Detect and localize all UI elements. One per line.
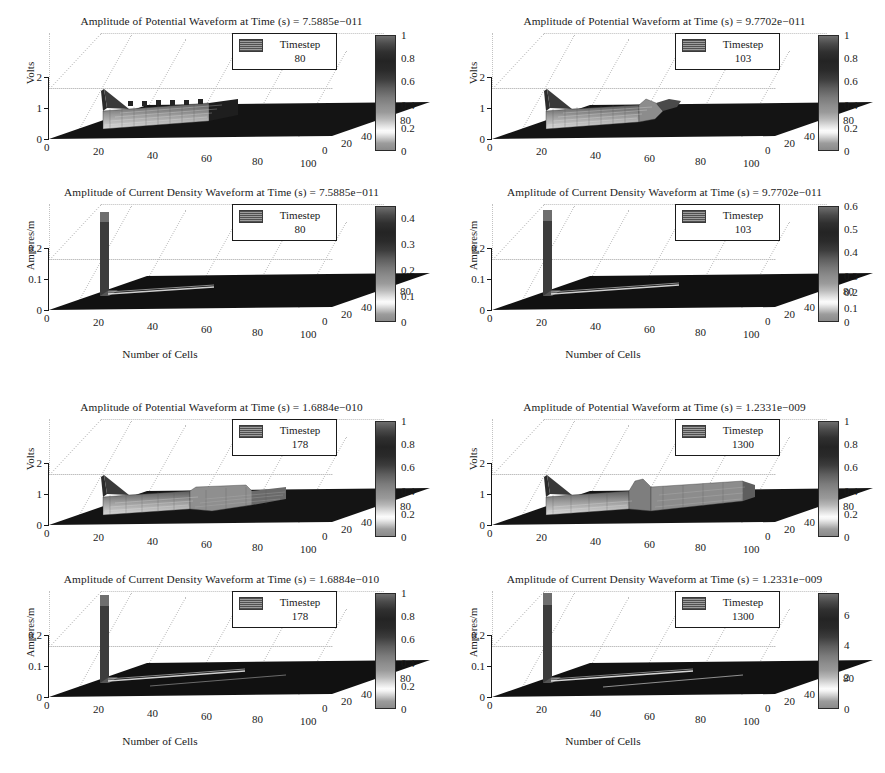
- x-tick-label: 20: [93, 703, 104, 715]
- x-tick-label: 100: [743, 715, 760, 727]
- x-tick-label: 20: [536, 703, 547, 715]
- x-tick-label: 100: [743, 543, 760, 555]
- z-tick-label: 0: [322, 530, 328, 542]
- z-tick-label: 20: [341, 695, 352, 707]
- legend-box[interactable]: Timestep 178: [232, 419, 337, 456]
- colorbar-tick: 0: [401, 531, 407, 543]
- plot-area: Volts 2 1 0: [443, 415, 885, 543]
- z-tick-label: 40: [361, 688, 372, 700]
- x-tick-label: 40: [590, 707, 601, 719]
- x-tick-label: 100: [300, 328, 317, 340]
- legend-swatch: [682, 210, 706, 223]
- x-tick-label: 80: [252, 155, 263, 167]
- x-tick-label: 60: [644, 710, 655, 722]
- legend-timestep-value: 103: [714, 51, 772, 65]
- colorbar-tick: 1: [401, 29, 407, 41]
- x-tick-label: 20: [536, 145, 547, 157]
- legend-swatch: [239, 597, 263, 610]
- colorbar: [818, 206, 839, 322]
- x-tick-label: 80: [252, 713, 263, 725]
- x-tick-label: 80: [252, 541, 263, 553]
- colorbar-tick: 0.6: [401, 75, 415, 87]
- panel-title: Amplitude of Current Density Waveform at…: [0, 185, 443, 200]
- legend-box[interactable]: Timestep 1300: [675, 591, 780, 628]
- x-tick-label: 80: [695, 326, 706, 338]
- legend-timestep-value: 1300: [714, 609, 772, 623]
- colorbar: [818, 593, 839, 709]
- x-tick-label: 40: [147, 320, 158, 332]
- panel-current-t80: Amplitude of Current Density Waveform at…: [0, 185, 443, 328]
- panel-current-t103: Amplitude of Current Density Waveform at…: [443, 185, 885, 328]
- colorbar: [375, 593, 396, 709]
- x-tick-label: 40: [147, 535, 158, 547]
- colorbar-tick: 0.8: [401, 52, 415, 64]
- panel-potential-t1300: Amplitude of Potential Waveform at Time …: [443, 400, 885, 543]
- legend-box[interactable]: Timestep 103: [675, 204, 780, 241]
- legend-box[interactable]: Timestep 103: [675, 33, 780, 70]
- colorbar-tick: 0: [844, 316, 850, 328]
- legend-text: Timestep 178: [271, 595, 329, 623]
- plot-area: Volts 2 1 0: [0, 29, 443, 157]
- panel-title: Amplitude of Potential Waveform at Time …: [0, 14, 443, 29]
- colorbar-tick: 6: [844, 609, 850, 621]
- x-tick-label: 80: [695, 155, 706, 167]
- x-tick-label: 20: [536, 316, 547, 328]
- z-tick-label: 0: [322, 144, 328, 156]
- legend-timestep-value: 1300: [714, 437, 772, 451]
- x-tick-label: 0: [487, 699, 493, 711]
- colorbar-tick: 0.6: [844, 200, 858, 212]
- x-tick-label: 60: [644, 538, 655, 550]
- legend-series-label: Timestep: [280, 424, 321, 436]
- plot-area: Amperes/m 0.2 0.1 0: [443, 587, 885, 715]
- colorbar-tick: 0.2: [401, 508, 415, 520]
- colorbar-tick: 0.8: [401, 610, 415, 622]
- plot-area: Amperes/m 0.2 0.1 0: [443, 200, 885, 328]
- legend-box[interactable]: Timestep 1300: [675, 419, 780, 456]
- colorbar-tick: 0: [401, 145, 407, 157]
- legend-swatch: [682, 597, 706, 610]
- x-tick-label: 20: [536, 531, 547, 543]
- panel-current-t178: Amplitude of Current Density Waveform at…: [0, 572, 443, 715]
- plot-area: Amperes/m 0.2 0.1 0: [0, 587, 443, 715]
- legend-box[interactable]: Timestep 178: [232, 591, 337, 628]
- x-tick-label: 0: [44, 141, 50, 153]
- legend-series-label: Timestep: [723, 209, 764, 221]
- colorbar-tick: 1: [401, 415, 407, 427]
- legend-box[interactable]: Timestep 80: [232, 204, 337, 241]
- x-tick-label: 40: [590, 535, 601, 547]
- colorbar-tick: 0.4: [844, 485, 858, 497]
- x-tick-label: 100: [300, 715, 317, 727]
- panel-title: Amplitude of Current Density Waveform at…: [443, 572, 885, 587]
- legend-series-label: Timestep: [280, 596, 321, 608]
- x-tick-label: 60: [201, 538, 212, 550]
- legend-series-label: Timestep: [280, 209, 321, 221]
- colorbar-tick: 0.2: [844, 508, 858, 520]
- z-tick-label: 0: [765, 144, 771, 156]
- x-tick-label: 60: [644, 323, 655, 335]
- x-tick-label: 80: [252, 326, 263, 338]
- colorbar-tick: 1: [844, 415, 850, 427]
- plot-area: Amperes/m 0.2 0.1 0: [0, 200, 443, 328]
- z-tick-label: 20: [784, 308, 795, 320]
- z-tick-label: 0: [322, 702, 328, 714]
- z-tick-label: 40: [361, 301, 372, 313]
- x-tick-label: 20: [93, 316, 104, 328]
- z-tick-label: 40: [804, 516, 815, 528]
- colorbar-tick: 0: [844, 703, 850, 715]
- colorbar: [375, 421, 396, 537]
- colorbar-tick: 0.6: [401, 633, 415, 645]
- legend-timestep-value: 178: [271, 437, 329, 451]
- panel-potential-t103: Amplitude of Potential Waveform at Time …: [443, 14, 885, 157]
- colorbar-tick: 1: [401, 587, 407, 599]
- x-tick-label: 100: [743, 157, 760, 169]
- x-tick-label: 100: [743, 328, 760, 340]
- legend-series-label: Timestep: [723, 38, 764, 50]
- colorbar: [375, 35, 396, 151]
- legend-box[interactable]: Timestep 80: [232, 33, 337, 70]
- x-tick-label: 0: [487, 527, 493, 539]
- plot-area: Volts 2 1 0: [443, 29, 885, 157]
- legend-timestep-value: 80: [271, 222, 329, 236]
- legend-text: Timestep 80: [271, 208, 329, 236]
- colorbar-tick: 0.8: [401, 438, 415, 450]
- colorbar-tick: 0.6: [844, 461, 858, 473]
